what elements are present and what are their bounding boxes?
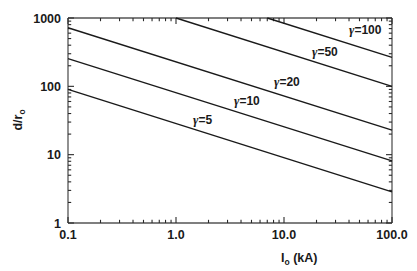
x-tick-label: 0.1 [59, 228, 76, 242]
y-axis-title-sub: o [17, 109, 27, 114]
y-axis-title-main: d/r [11, 114, 25, 130]
x-axis-title-unit: (kA) [290, 251, 318, 265]
gamma-value: =5 [198, 113, 212, 127]
series-annotation: γ=5 [193, 112, 212, 127]
series-annotation: γ=20 [274, 74, 300, 89]
y-tick-label: 100 [40, 80, 61, 94]
gamma-value: =10 [239, 94, 260, 108]
chart-svg: 0.11.010.0100.0 1101001000 γ=100γ=50γ=20… [0, 0, 417, 271]
gamma-value: =20 [279, 75, 300, 89]
y-tick-label: 1000 [33, 12, 61, 26]
series-annotation: γ=10 [234, 93, 260, 108]
y-tick-label: 10 [47, 148, 61, 162]
x-tick-label: 100.0 [376, 228, 407, 242]
figure-log-log-plot: 0.11.010.0100.0 1101001000 γ=100γ=50γ=20… [0, 0, 417, 271]
gamma-value: =50 [317, 45, 338, 59]
series-annotation: γ=100 [349, 22, 382, 37]
gamma-value: =100 [354, 23, 381, 37]
x-tick-label: 1.0 [167, 228, 184, 242]
y-tick-label: 1 [54, 217, 61, 231]
x-tick-label: 10.0 [272, 228, 296, 242]
series-annotation: γ=50 [312, 44, 338, 59]
